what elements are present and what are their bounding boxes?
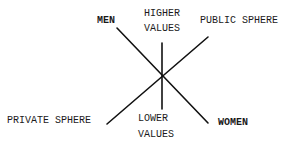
label-public-sphere: PUBLIC SPHERE (200, 16, 278, 26)
label-higher-values-line1: HIGHER (144, 9, 180, 19)
label-men: MEN (97, 16, 115, 26)
label-private-sphere: PRIVATE SPHERE (7, 116, 91, 126)
label-lower-values-line2: VALUES (138, 130, 174, 140)
label-women: WOMEN (218, 118, 248, 128)
diagram-canvas: MEN HIGHER VALUES PUBLIC SPHERE PRIVATE … (0, 0, 294, 146)
label-higher-values-line2: VALUES (144, 24, 180, 34)
public-private-axis (107, 37, 208, 124)
label-lower-values-line1: LOWER (138, 114, 168, 124)
